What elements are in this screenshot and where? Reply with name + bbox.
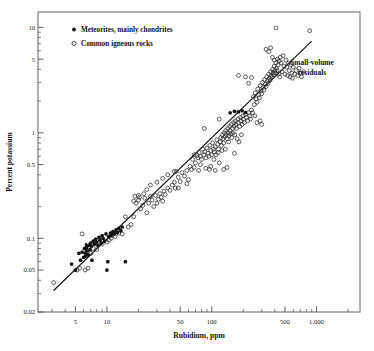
legend: Meteorites, mainly chondrites Common ign…: [72, 26, 173, 48]
data-point-igneous-rock: [230, 136, 234, 140]
data-point-igneous-rock: [83, 268, 87, 272]
data-point-igneous-rock: [198, 163, 202, 167]
data-point-meteorite: [233, 109, 237, 113]
data-point-igneous-rock: [166, 173, 170, 177]
data-point-igneous-rock: [191, 157, 195, 161]
data-point-igneous-rock: [216, 142, 220, 146]
data-point-igneous-rock: [161, 176, 165, 180]
data-point-igneous-rock: [150, 198, 154, 202]
data-point-igneous-rock: [129, 223, 133, 227]
data-point-meteorite: [240, 109, 244, 113]
data-point-meteorite: [120, 225, 124, 229]
annotation-line-2: residuals: [298, 68, 326, 77]
data-point-igneous-rock: [253, 114, 257, 118]
data-point-meteorite: [103, 239, 107, 243]
legend-label-meteorites: Meteorites, mainly chondrites: [81, 26, 173, 34]
y-tick-label-2: 1: [32, 129, 35, 136]
data-point-meteorite: [89, 244, 93, 248]
data-point-igneous-rock: [269, 46, 273, 50]
data-point-igneous-rock: [222, 141, 226, 145]
y-tick-label-1: 5: [32, 56, 36, 63]
data-point-igneous-rock: [217, 117, 221, 121]
data-point-igneous-rock: [227, 140, 231, 144]
data-point-igneous-rock: [194, 161, 198, 165]
data-point-igneous-rock: [267, 50, 271, 54]
data-point-igneous-rock: [123, 215, 127, 219]
data-point-igneous-rock: [178, 180, 182, 184]
data-point-igneous-rock: [197, 169, 201, 173]
scatter-plot: 10510.50.10.050.02 510501005001,000 Mete…: [0, 0, 374, 351]
data-point-igneous-rock: [153, 193, 157, 197]
data-point-igneous-rock: [152, 205, 156, 209]
data-point-igneous-rock: [80, 232, 84, 236]
data-point-meteorite: [109, 234, 113, 238]
data-point-meteorite: [79, 258, 83, 262]
data-point-igneous-rock: [250, 76, 254, 80]
data-point-igneous-rock: [168, 188, 172, 192]
data-point-igneous-rock: [225, 165, 229, 169]
y-tick-label-0: 10: [28, 24, 35, 31]
data-point-igneous-rock: [274, 26, 278, 30]
data-point-igneous-rock: [187, 178, 191, 182]
data-point-igneous-rock: [239, 133, 243, 137]
open-circle-icon: [72, 42, 76, 46]
y-tick-label-6: 0.02: [23, 308, 35, 315]
data-point-meteorite: [104, 232, 108, 236]
data-point-igneous-rock: [145, 211, 149, 215]
figure-container: 10510.50.10.050.02 510501005001,000 Mete…: [0, 0, 374, 351]
data-point-igneous-rock: [176, 175, 180, 179]
data-point-igneous-rock: [237, 74, 241, 78]
data-point-igneous-rock: [147, 201, 151, 205]
data-point-igneous-rock: [201, 147, 205, 151]
data-point-igneous-rock: [145, 188, 149, 192]
data-point-igneous-rock: [185, 169, 189, 173]
data-point-meteorite: [99, 241, 103, 245]
data-point-igneous-rock: [132, 199, 136, 203]
y-tick-label-4: 0.1: [27, 235, 35, 242]
data-point-igneous-rock: [185, 182, 189, 186]
data-point-igneous-rock: [220, 143, 224, 147]
data-point-igneous-rock: [148, 183, 152, 187]
data-point-igneous-rock: [217, 161, 221, 165]
x-tick-label-0: 5: [74, 318, 78, 325]
y-tick-label-3: 0.5: [27, 161, 36, 168]
data-point-igneous-rock: [281, 54, 285, 58]
data-point-igneous-rock: [212, 157, 216, 161]
data-point-igneous-rock: [223, 147, 227, 151]
data-point-igneous-rock: [211, 141, 215, 145]
data-point-igneous-rock: [204, 166, 208, 170]
data-point-igneous-rock: [287, 69, 291, 73]
data-point-igneous-rock: [237, 140, 241, 144]
x-tick-label-1: 10: [104, 318, 111, 325]
x-axis-title: Rubidium, ppm: [173, 331, 225, 340]
data-point-igneous-rock: [244, 75, 248, 79]
data-point-igneous-rock: [180, 171, 184, 175]
data-point-igneous-rock: [192, 165, 196, 169]
data-point-igneous-rock: [163, 193, 167, 197]
data-point-igneous-rock: [86, 266, 90, 270]
data-point-igneous-rock: [183, 174, 187, 178]
data-point-igneous-rock: [213, 169, 217, 173]
data-point-igneous-rock: [161, 199, 165, 203]
data-point-igneous-rock: [155, 180, 159, 184]
x-axis-ticks: [52, 307, 348, 313]
data-point-igneous-rock: [260, 123, 264, 127]
data-point-meteorite: [96, 243, 100, 247]
data-point-igneous-rock: [202, 127, 206, 131]
data-point-meteorite: [90, 258, 94, 262]
data-point-igneous-rock: [132, 215, 136, 219]
data-point-igneous-rock: [308, 29, 312, 33]
data-point-igneous-rock: [166, 186, 170, 190]
data-point-meteorite: [106, 260, 110, 264]
data-point-igneous-rock: [52, 281, 56, 285]
data-point-igneous-rock: [155, 201, 159, 205]
x-tick-label-2: 50: [177, 318, 184, 325]
data-point-meteorite: [105, 268, 109, 272]
filled-circle-icon: [72, 28, 76, 32]
legend-label-igneous-rocks: Common igneous rocks: [81, 40, 153, 48]
data-point-igneous-rock: [172, 180, 176, 184]
data-point-igneous-rock: [247, 81, 251, 85]
x-tick-label-5: 1,000: [309, 318, 325, 325]
x-tick-label-4: 500: [280, 318, 291, 325]
y-axis-title: Percent potassium: [5, 132, 14, 192]
